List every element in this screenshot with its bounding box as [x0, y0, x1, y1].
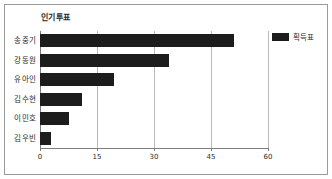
chart-container: 인기투표 송중기 강동원 유아인 김수현 이민호 김우빈 0 15 30 45 …: [0, 0, 332, 179]
x-tick-label: 60: [264, 153, 273, 161]
legend-label: 획득표: [293, 31, 315, 42]
bar: [40, 93, 82, 106]
bar: [40, 112, 69, 125]
bar-row: [40, 51, 268, 71]
bar-row: [40, 70, 268, 90]
category-label: 유아인: [14, 70, 36, 90]
legend-swatch-icon: [272, 33, 289, 41]
category-label: 이민호: [14, 109, 36, 129]
bar-row: [40, 109, 268, 129]
bar-row: [40, 129, 268, 149]
category-label: 강동원: [14, 51, 36, 71]
x-tick-label: 45: [207, 153, 216, 161]
bar: [40, 132, 51, 145]
x-tick-15: [97, 148, 98, 151]
x-tick-label: 30: [150, 153, 159, 161]
category-label: 김수현: [14, 90, 36, 110]
plot-area: [40, 31, 268, 148]
x-tick-label: 0: [38, 153, 42, 161]
category-label: 송중기: [14, 31, 36, 51]
bar: [40, 34, 234, 47]
bar-row: [40, 31, 268, 51]
bar: [40, 54, 169, 67]
x-tick-30: [154, 148, 155, 151]
x-tick-45: [211, 148, 212, 151]
x-tick-0: [40, 148, 41, 151]
chart-legend: 획득표: [272, 31, 315, 42]
category-label: 김우빈: [14, 129, 36, 149]
bar-series-획득표: [40, 31, 268, 148]
x-tick-label: 15: [93, 153, 102, 161]
category-axis-labels: 송중기 강동원 유아인 김수현 이민호 김우빈: [4, 31, 38, 148]
chart-title: 인기투표: [41, 11, 71, 22]
bar: [40, 73, 114, 86]
x-tick-60: [268, 148, 269, 151]
bar-row: [40, 90, 268, 110]
legend-separator: [268, 31, 269, 148]
